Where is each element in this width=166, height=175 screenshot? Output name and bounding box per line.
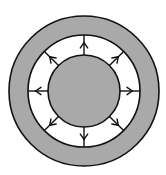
concentric-circle-diagram <box>0 0 166 175</box>
diagram-canvas <box>0 0 166 175</box>
inner-circle <box>48 55 120 127</box>
